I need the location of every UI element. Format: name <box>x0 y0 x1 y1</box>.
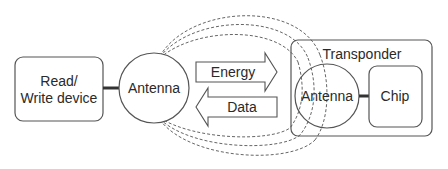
transponder: Transponder Antenna Chip <box>291 40 432 136</box>
energy-arrow: Energy <box>196 53 277 91</box>
data-arrow-label: Data <box>227 99 257 115</box>
reader-device-label-line2: Write device <box>21 90 98 106</box>
field-line-bottom-inner <box>160 118 290 137</box>
reader-antenna: Antenna <box>119 53 189 123</box>
reader-antenna-label: Antenna <box>128 80 180 96</box>
transponder-label: Transponder <box>323 46 402 62</box>
rfid-diagram: Read/ Write device Antenna Energy Data T… <box>0 0 448 169</box>
reader-device-label-line1: Read/ <box>40 73 77 89</box>
reader-device: Read/ Write device <box>15 57 103 121</box>
chip-label: Chip <box>381 88 410 104</box>
transponder-antenna-label: Antenna <box>301 88 353 104</box>
energy-arrow-label: Energy <box>211 64 255 80</box>
field-line-top-inner <box>160 34 298 62</box>
field-line-top-outer <box>160 16 320 56</box>
field-line-top-middle <box>160 24 308 58</box>
data-arrow: Data <box>196 88 277 126</box>
reader-device-box <box>15 57 103 121</box>
